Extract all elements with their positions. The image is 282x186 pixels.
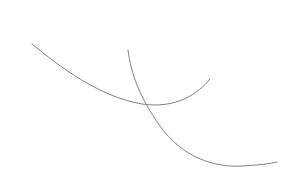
drawing-canvas <box>0 0 282 186</box>
vector-drawing-surface <box>0 0 282 186</box>
